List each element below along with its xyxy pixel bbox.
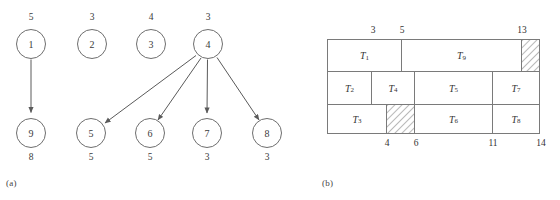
bottom-tick-6: 6 xyxy=(405,138,427,148)
edge-4-5 xyxy=(105,56,196,124)
task-label-T9: T xyxy=(457,50,463,61)
task-block-T5[interactable]: T5 xyxy=(414,71,493,105)
node-weight-4: 3 xyxy=(193,12,223,22)
task-block-T1[interactable]: T1 xyxy=(327,39,402,72)
graph-node-3[interactable]: 3 xyxy=(136,29,166,59)
bottom-tick-4: 4 xyxy=(376,138,398,148)
idle-block-bottom-middle xyxy=(386,104,415,134)
graph-node-5[interactable]: 5 xyxy=(76,118,106,148)
panel-b-caption: (b) xyxy=(322,178,333,188)
node-weight-6: 5 xyxy=(135,152,165,162)
idle-block-top-right xyxy=(521,39,540,72)
task-block-T6[interactable]: T6 xyxy=(414,104,493,134)
task-block-T2[interactable]: T2 xyxy=(327,71,372,105)
edge-4-8 xyxy=(217,58,259,121)
task-label-T6: T xyxy=(449,114,455,125)
task-block-T9[interactable]: T9 xyxy=(401,39,522,72)
node-weight-7: 3 xyxy=(192,152,222,162)
task-label-T1: T xyxy=(360,50,366,61)
hatch-pattern-bottom-middle xyxy=(387,105,414,133)
bottom-tick-11: 11 xyxy=(482,138,504,148)
graph-node-1[interactable]: 1 xyxy=(16,29,46,59)
task-block-T8[interactable]: T8 xyxy=(492,104,540,134)
graph-node-9[interactable]: 9 xyxy=(16,118,46,148)
task-block-T3[interactable]: T3 xyxy=(327,104,387,134)
top-tick-5: 5 xyxy=(391,25,413,35)
graph-node-8[interactable]: 8 xyxy=(252,118,282,148)
node-weight-9: 8 xyxy=(16,152,46,162)
hatch-pattern-top-right xyxy=(522,40,539,71)
node-weight-1: 5 xyxy=(16,12,46,22)
task-block-T4[interactable]: T4 xyxy=(371,71,415,105)
top-tick-13: 13 xyxy=(511,25,533,35)
task-label-T5: T xyxy=(449,83,455,94)
graph-node-6[interactable]: 6 xyxy=(135,118,165,148)
bottom-tick-14: 14 xyxy=(530,138,552,148)
edge-4-7 xyxy=(207,60,208,114)
node-weight-2: 3 xyxy=(77,12,107,22)
node-weight-3: 4 xyxy=(136,12,166,22)
graph-node-7[interactable]: 7 xyxy=(192,118,222,148)
task-label-T2: T xyxy=(345,83,351,94)
figure-container: 5 3 4 3 1 2 3 4 9 5 6 7 8 8 5 5 3 3 (a) … xyxy=(0,0,560,200)
graph-node-4[interactable]: 4 xyxy=(193,29,223,59)
node-weight-5: 5 xyxy=(76,152,106,162)
top-tick-3: 3 xyxy=(362,25,384,35)
task-block-T7[interactable]: T7 xyxy=(492,71,540,105)
node-weight-8: 3 xyxy=(252,152,282,162)
graph-node-2[interactable]: 2 xyxy=(77,29,107,59)
panel-a-caption: (a) xyxy=(6,178,17,188)
